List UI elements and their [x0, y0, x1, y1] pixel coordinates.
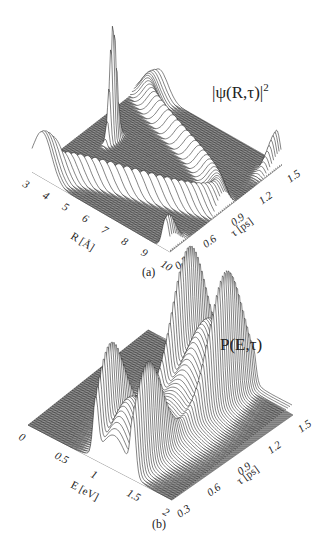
- x-tick-label: 5: [60, 200, 71, 213]
- y-tick-label: 0.6: [204, 480, 223, 498]
- y-tick-label: 0.6: [200, 232, 219, 250]
- y-tick-label: 1.5: [284, 167, 303, 185]
- chart-title-b: P(E,τ): [220, 335, 262, 354]
- x-tick-label: 8: [120, 234, 131, 247]
- x-axis-label-b: E [eV]: [69, 478, 101, 503]
- x-tick-label: 7: [100, 223, 111, 236]
- x-tick-label: 6: [80, 212, 91, 225]
- panel-caption-b: (b): [152, 517, 166, 531]
- x-tick-label: 1.5: [125, 486, 143, 503]
- chart-title-a: |ψ(R,τ)|2: [212, 81, 269, 102]
- figure: 345678910 0.30.60.91.21.5 R [Å] τ [ps] |…: [0, 0, 314, 544]
- x-axis-label-a: R [Å]: [69, 230, 97, 254]
- panel-a: 345678910 0.30.60.91.21.5 R [Å] τ [ps] |…: [20, 26, 303, 279]
- panel-caption-a: (a): [142, 265, 155, 279]
- surface-b: [28, 246, 292, 500]
- panel-b: 00.511.52 0.30.60.91.21.5 E [eV] τ [ps] …: [17, 246, 314, 531]
- y-tick-label: 1.5: [295, 417, 314, 435]
- x-tick-label: 0: [17, 430, 28, 443]
- x-tick-label: 0.5: [53, 449, 71, 466]
- y-tick-label: 1.2: [265, 438, 284, 456]
- y-tick-label: 1.2: [256, 188, 275, 206]
- x-tick-label: 1: [89, 468, 99, 481]
- x-tick-label: 3: [20, 177, 32, 191]
- x-tick-label: 10: [159, 257, 175, 273]
- y-tick-label: 0.3: [174, 502, 193, 520]
- x-tick-label: 9: [139, 246, 150, 259]
- x-tick-label: 4: [41, 189, 52, 202]
